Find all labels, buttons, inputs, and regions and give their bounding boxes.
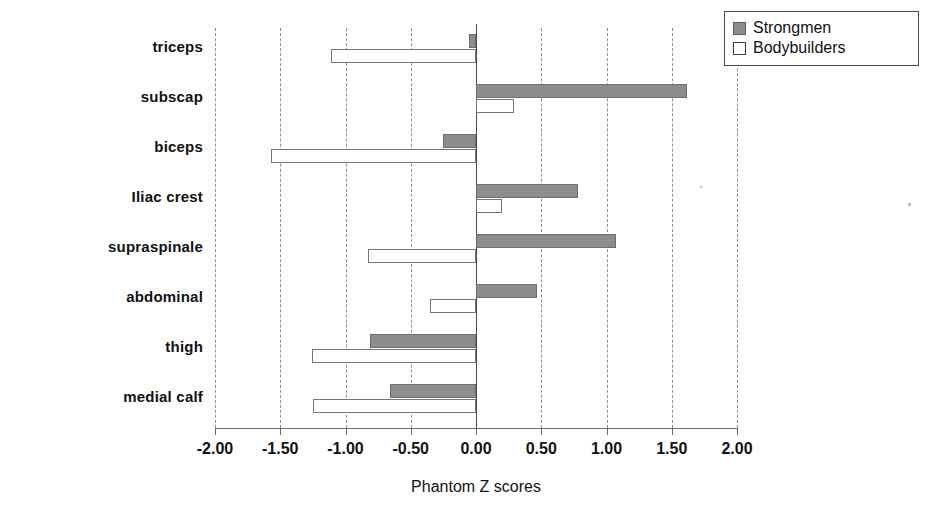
legend-label-strongmen: Strongmen [753,19,831,37]
bar-bodybuilders-thigh [312,349,476,363]
bar-bodybuilders-supraspinale [368,249,476,263]
x-axis-tick-label: -1.50 [262,440,298,458]
y-axis-label-subscap: subscap [141,88,203,105]
bar-strongmen-subscap [476,84,687,98]
bar-group [215,228,737,278]
bar-strongmen-triceps [469,34,476,48]
legend-item-bodybuilders: Bodybuilders [733,39,910,57]
x-axis-tick-label: -2.00 [197,440,233,458]
legend-label-bodybuilders: Bodybuilders [753,39,846,57]
bar-group [215,278,737,328]
x-axis-tick [280,428,281,435]
bar-bodybuilders-iliac-crest [476,199,502,213]
bar-group [215,28,737,78]
x-axis-tick [215,428,216,435]
y-axis-label-thigh: thigh [165,338,203,355]
x-axis-tick [411,428,412,435]
x-axis-tick-label: 0.50 [526,440,557,458]
x-axis-tick [541,428,542,435]
bar-strongmen-iliac-crest [476,184,578,198]
x-axis-tick-label: 1.00 [591,440,622,458]
x-axis-tick-label: 0.00 [460,440,491,458]
y-axis-label-iliac-crest: Iliac crest [132,188,203,205]
scan-speck [908,203,911,206]
bar-group [215,128,737,178]
y-axis-label-abdominal: abdominal [126,288,203,305]
bar-bodybuilders-abdominal [430,299,476,313]
x-axis-tick [346,428,347,435]
bar-bodybuilders-subscap [476,99,514,113]
bar-bodybuilders-biceps [271,149,476,163]
bar-strongmen-abdominal [476,284,537,298]
x-axis-tick [672,428,673,435]
x-axis-tick [607,428,608,435]
bar-strongmen-supraspinale [476,234,616,248]
legend-item-strongmen: Strongmen [733,19,910,37]
bar-group [215,328,737,378]
x-axis-tick [476,428,477,435]
filled-square-icon [733,22,746,35]
bar-bodybuilders-medial-calf [313,399,476,413]
plot-area [215,28,737,428]
y-axis-label-medial-calf: medial calf [123,388,203,405]
bar-group [215,78,737,128]
y-axis-label-supraspinale: supraspinale [108,238,203,255]
y-axis-label-triceps: triceps [152,38,203,55]
x-axis-title-wrapper: Phantom Z scores [215,478,737,496]
bar-strongmen-biceps [443,134,476,148]
x-axis-tick [737,428,738,435]
bar-group [215,378,737,428]
y-axis-category-labels: tricepssubscapbicepsIliac crestsupraspin… [0,28,203,428]
phantom-z-scores-bar-chart: tricepssubscapbicepsIliac crestsupraspin… [0,0,932,531]
gridline [737,28,738,428]
legend: Strongmen Bodybuilders [724,11,919,66]
scan-speck [700,186,702,188]
bar-strongmen-medial-calf [390,384,476,398]
x-axis-title: Phantom Z scores [411,478,541,495]
x-axis-tick-label: 1.50 [656,440,687,458]
x-axis-tick-label: 2.00 [721,440,752,458]
hollow-square-icon [733,42,746,55]
x-axis-tick-label: -1.00 [327,440,363,458]
bar-bodybuilders-triceps [331,49,476,63]
y-axis-label-biceps: biceps [154,138,203,155]
x-axis-tick-label: -0.50 [393,440,429,458]
bar-strongmen-thigh [370,334,476,348]
bar-group [215,178,737,228]
